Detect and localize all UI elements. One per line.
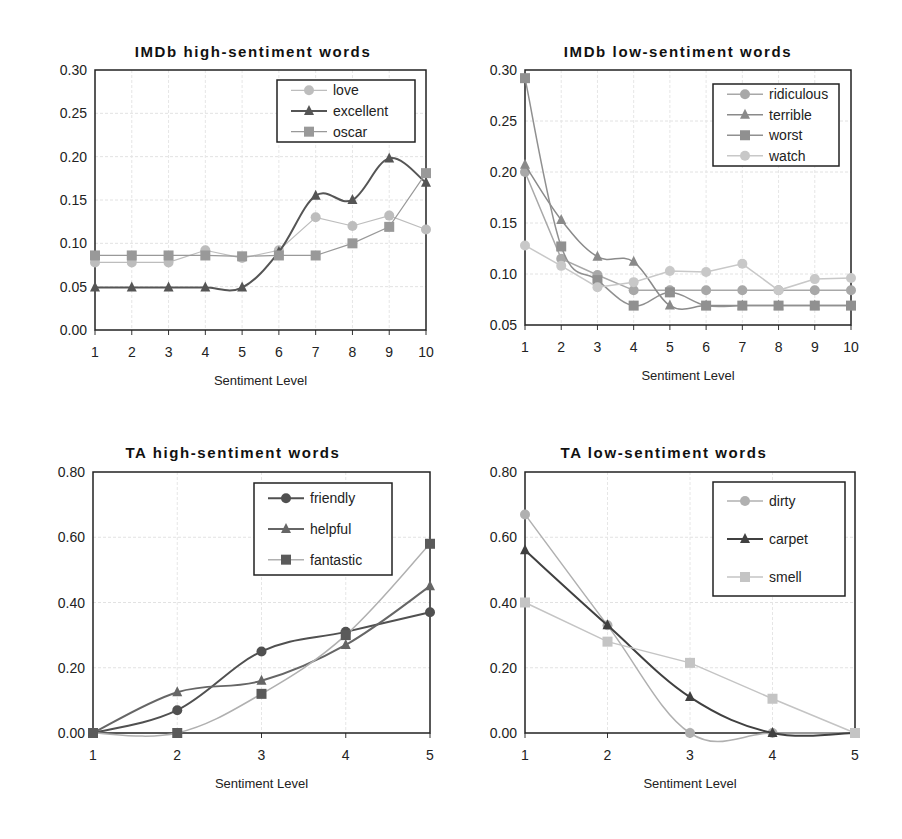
legend-label: smell bbox=[769, 569, 802, 585]
chart-imdb-high: IMDb high-sentiment words0.000.050.100.1… bbox=[0, 0, 451, 420]
oscar-marker-square bbox=[200, 250, 210, 260]
terrible-marker-triangle bbox=[520, 159, 530, 169]
watch-marker-circle bbox=[665, 266, 675, 276]
x-tick-label: 6 bbox=[702, 339, 710, 355]
y-tick-label: 0.30 bbox=[490, 62, 517, 78]
x-tick-label: 9 bbox=[385, 344, 393, 360]
y-tick-label: 0.80 bbox=[490, 464, 517, 480]
ridiculous-marker-circle bbox=[740, 89, 750, 99]
watch-marker-circle bbox=[740, 151, 750, 161]
fantastic-marker-square bbox=[425, 539, 435, 549]
worst-marker-square bbox=[665, 287, 675, 297]
oscar-marker-square bbox=[127, 250, 137, 260]
y-tick-label: 0.10 bbox=[60, 235, 87, 251]
legend-label: love bbox=[333, 82, 359, 98]
x-tick-label: 10 bbox=[843, 339, 859, 355]
smell-marker-square bbox=[603, 637, 613, 647]
chart-ta-low: TA low-sentiment words0.000.200.400.600.… bbox=[451, 420, 902, 839]
terrible-marker-triangle bbox=[665, 300, 675, 310]
worst-marker-square bbox=[846, 301, 856, 311]
y-tick-label: 0.20 bbox=[60, 149, 87, 165]
x-tick-label: 2 bbox=[128, 344, 136, 360]
legend-label: excellent bbox=[333, 103, 388, 119]
legend: ridiculousterribleworstwatch bbox=[713, 84, 839, 166]
y-tick-label: 0.80 bbox=[58, 464, 85, 480]
y-tick-label: 0.60 bbox=[490, 529, 517, 545]
x-tick-label: 1 bbox=[521, 339, 529, 355]
friendly-marker-circle bbox=[281, 493, 291, 503]
watch-marker-circle bbox=[774, 285, 784, 295]
x-axis-label: Sentiment Level bbox=[641, 368, 734, 383]
x-tick-label: 3 bbox=[686, 747, 694, 763]
y-tick-label: 0.30 bbox=[60, 62, 87, 78]
chart-ta-high: TA high-sentiment words0.000.200.400.600… bbox=[0, 420, 451, 839]
y-tick-label: 0.00 bbox=[490, 725, 517, 741]
y-tick-label: 0.15 bbox=[490, 215, 517, 231]
love-marker-circle bbox=[347, 221, 357, 231]
y-tick-label: 0.10 bbox=[490, 266, 517, 282]
oscar-marker-square bbox=[421, 168, 431, 178]
series-watch bbox=[520, 240, 856, 295]
x-tick-label: 2 bbox=[604, 747, 612, 763]
smell-marker-square bbox=[520, 598, 530, 608]
smell-marker-square bbox=[685, 658, 695, 668]
watch-marker-circle bbox=[629, 277, 639, 287]
smell-marker-square bbox=[850, 728, 860, 738]
oscar-marker-square bbox=[384, 222, 394, 232]
legend-label: worst bbox=[768, 127, 803, 143]
y-tick-label: 0.00 bbox=[58, 725, 85, 741]
smell-marker-square bbox=[768, 694, 778, 704]
watch-marker-circle bbox=[520, 240, 530, 250]
y-tick-label: 0.60 bbox=[58, 529, 85, 545]
x-tick-label: 1 bbox=[91, 344, 99, 360]
worst-marker-square bbox=[701, 301, 711, 311]
oscar-marker-square bbox=[311, 250, 321, 260]
y-tick-label: 0.40 bbox=[58, 595, 85, 611]
y-tick-label: 0.25 bbox=[60, 105, 87, 121]
oscar-marker-square bbox=[90, 250, 100, 260]
x-tick-label: 6 bbox=[275, 344, 283, 360]
y-tick-label: 0.40 bbox=[490, 595, 517, 611]
oscar-marker-square bbox=[274, 250, 284, 260]
watch-marker-circle bbox=[556, 261, 566, 271]
legend: friendlyhelpfulfantastic bbox=[254, 483, 392, 575]
y-tick-label: 0.20 bbox=[490, 660, 517, 676]
x-tick-label: 4 bbox=[342, 747, 350, 763]
x-tick-label: 1 bbox=[521, 747, 529, 763]
fantastic-marker-square bbox=[172, 728, 182, 738]
watch-marker-circle bbox=[737, 259, 747, 269]
worst-marker-square bbox=[774, 301, 784, 311]
x-tick-label: 7 bbox=[738, 339, 746, 355]
love-marker-circle bbox=[384, 211, 394, 221]
x-tick-label: 8 bbox=[349, 344, 357, 360]
x-tick-label: 3 bbox=[258, 747, 266, 763]
ridiculous-marker-circle bbox=[701, 285, 711, 295]
x-tick-label: 4 bbox=[769, 747, 777, 763]
x-tick-label: 3 bbox=[165, 344, 173, 360]
worst-marker-square bbox=[740, 130, 750, 140]
x-axis-label: Sentiment Level bbox=[643, 776, 736, 791]
terrible-marker-triangle bbox=[592, 251, 602, 261]
watch-marker-circle bbox=[846, 273, 856, 283]
ridiculous-marker-circle bbox=[846, 285, 856, 295]
y-tick-label: 0.20 bbox=[58, 660, 85, 676]
oscar-marker-square bbox=[304, 127, 314, 137]
legend-label: carpet bbox=[769, 531, 808, 547]
worst-marker-square bbox=[810, 301, 820, 311]
friendly-marker-circle bbox=[425, 607, 435, 617]
oscar-marker-square bbox=[164, 250, 174, 260]
worst-marker-square bbox=[737, 301, 747, 311]
y-tick-label: 0.05 bbox=[60, 279, 87, 295]
watch-marker-circle bbox=[810, 274, 820, 284]
series-love bbox=[90, 211, 431, 268]
helpful-marker-triangle bbox=[425, 580, 435, 590]
worst-marker-square bbox=[556, 241, 566, 251]
series-excellent bbox=[90, 152, 431, 291]
x-tick-label: 5 bbox=[851, 747, 859, 763]
carpet-marker-triangle bbox=[520, 544, 530, 554]
watch-marker-circle bbox=[592, 282, 602, 292]
dirty-marker-circle bbox=[685, 728, 695, 738]
y-tick-label: 0.05 bbox=[490, 317, 517, 333]
legend-label: helpful bbox=[310, 521, 351, 537]
series-terrible bbox=[520, 159, 856, 310]
